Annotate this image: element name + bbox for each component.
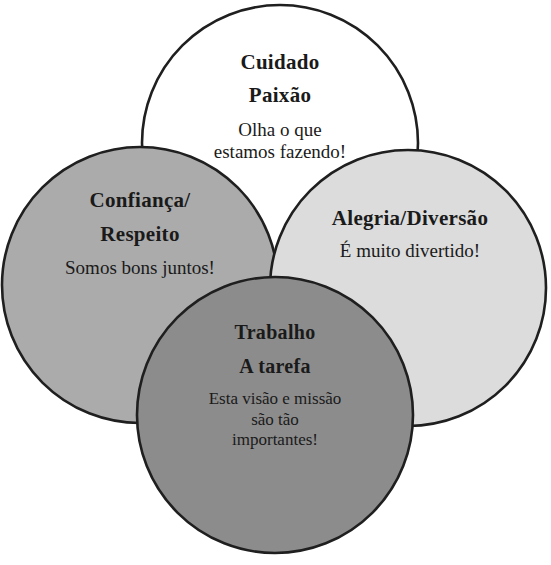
left-circle-subheading: Respeito [22,224,258,245]
top-circle-subheading: Paixão [155,85,405,106]
top-circle-heading: Cuidado [155,52,405,73]
right-circle-caption-line-1: É muito divertido! [296,240,524,262]
top-circle-caption-line-1: Olha o que [155,119,405,141]
bottom-circle-caption-line-3: importantes! [152,430,398,451]
top-circle-caption-line-2: estamos fazendo! [155,141,405,163]
left-circle-label-group: Confiança/ Respeito Somos bons juntos! [22,190,258,279]
top-circle-label-group: Cuidado Paixão Olha o que estamos fazend… [155,52,405,163]
bottom-circle-subheading: A tarefa [152,356,398,376]
left-circle-caption: Somos bons juntos! [22,257,258,279]
bottom-circle-caption: Esta visão e missão são tão importantes! [152,389,398,451]
right-circle-caption: É muito divertido! [296,240,524,262]
bottom-circle-caption-line-2: são tão [152,410,398,431]
right-circle-label-group: Alegria/Diversão É muito divertido! [296,208,524,262]
bottom-circle-heading: Trabalho [152,322,398,342]
bottom-circle-label-group: Trabalho A tarefa Esta visão e missão sã… [152,322,398,451]
bottom-circle-caption-line-1: Esta visão e missão [152,389,398,410]
left-circle-caption-line-1: Somos bons juntos! [22,257,258,279]
left-circle-heading: Confiança/ [22,190,258,211]
top-circle-caption: Olha o que estamos fazendo! [155,119,405,163]
venn-diagram: Cuidado Paixão Olha o que estamos fazend… [0,0,551,565]
right-circle-heading: Alegria/Diversão [296,208,524,229]
